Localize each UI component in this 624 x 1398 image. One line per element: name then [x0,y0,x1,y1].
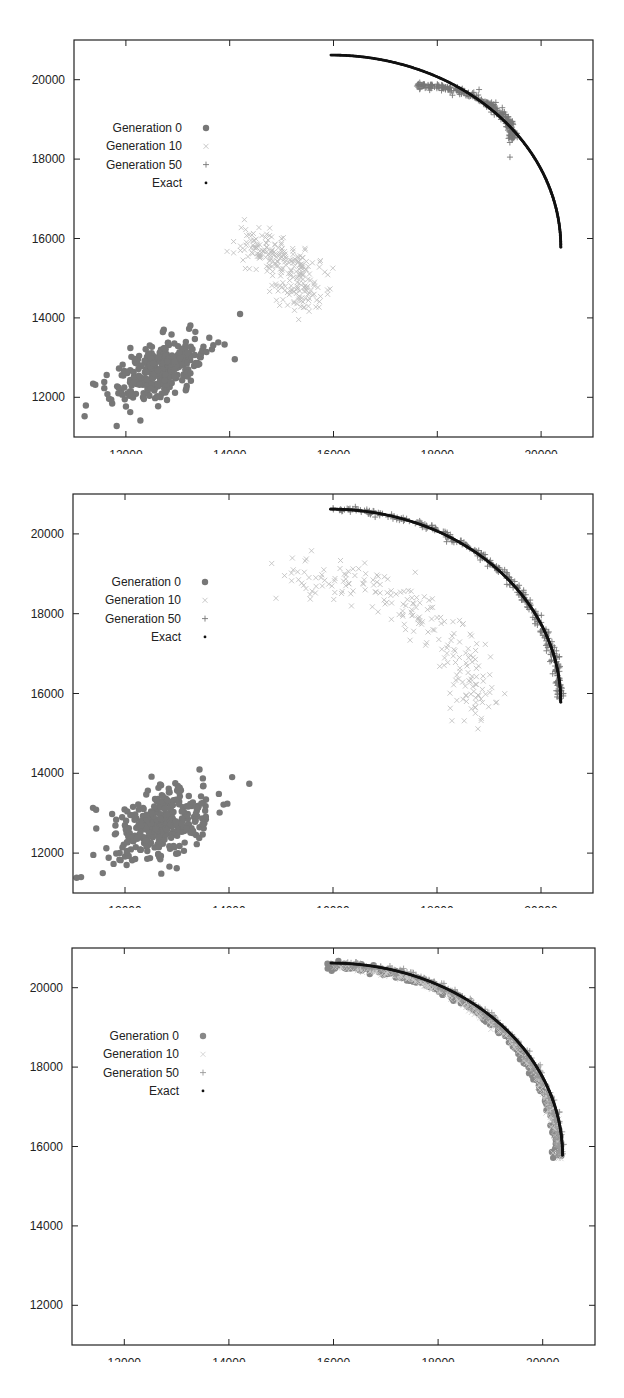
data-point [454,698,459,703]
data-point [273,596,278,601]
data-point [504,581,510,587]
data-point [171,358,177,364]
data-point [130,379,136,385]
data-point [476,663,481,668]
data-point [272,242,277,247]
data-point [435,615,440,620]
data-point [372,514,378,520]
data-point [154,393,160,399]
plot-area [81,54,562,429]
data-point [422,594,427,599]
data-point [103,845,109,851]
data-point [123,403,129,409]
data-point [177,784,183,790]
data-point [203,125,209,131]
data-point [137,417,143,423]
data-point [463,651,468,656]
data-point [181,839,187,845]
data-point [325,292,330,297]
data-point [185,803,191,809]
y-tick-label: 12000 [32,390,66,404]
data-point [409,595,414,600]
data-point [138,822,144,828]
data-point [205,182,208,185]
data-point [373,589,378,594]
data-point [452,648,457,653]
data-point [442,655,447,660]
data-point [349,603,354,608]
data-point [449,718,454,723]
data-point [295,569,300,574]
data-point [166,863,172,869]
data-point [183,825,189,831]
data-point [113,423,119,429]
data-point [475,726,480,731]
data-point [547,659,553,665]
data-point [198,800,204,806]
data-point [242,217,247,222]
legend-label: Generation 50 [103,1066,179,1080]
data-point [100,870,106,876]
y-tick-label: 18000 [32,152,66,166]
data-point [178,821,184,827]
data-point [267,226,272,231]
data-point [439,647,444,652]
data-point [151,803,157,809]
data-point [143,837,149,843]
data-point [302,570,307,575]
data-point [143,811,149,817]
data-point [155,403,161,409]
data-point [448,706,453,711]
data-point [466,646,471,651]
data-point [342,571,347,576]
data-point [449,638,454,643]
data-point [460,680,465,685]
data-point [385,577,390,582]
data-point [123,826,129,832]
data-point [461,697,466,702]
x-tick-label: 16000 [317,1356,351,1362]
data-point [463,684,468,689]
y-tick-label: 12000 [30,1298,64,1312]
data-point [116,857,122,863]
data-point [192,336,198,342]
data-point [487,672,492,677]
data-point [363,571,368,576]
data-point [200,1033,206,1039]
data-point [196,766,202,772]
data-point [309,548,314,553]
data-point [280,280,285,285]
data-point [200,775,206,781]
legend-marker-icon [202,1090,205,1093]
data-point [363,587,368,592]
data-point [468,632,473,637]
x-tick-label: 20000 [526,1356,560,1362]
plot-frame [72,948,595,1345]
data-point [164,397,170,403]
data-point [270,273,275,278]
data-point [442,663,447,668]
chart-panel-middle: 1200014000160001800020000200001800016000… [0,454,624,908]
legend-label: Generation 0 [110,1029,180,1043]
chart-panel-bottom: 1200014000160001800020000200001800016000… [0,908,624,1362]
legend-label: Generation 0 [113,121,183,135]
legend-marker-icon [204,636,207,639]
data-point [464,699,469,704]
data-point [198,793,204,799]
data-point [244,240,249,245]
data-point [194,805,200,811]
data-point [174,833,180,839]
data-point [303,586,308,591]
data-point [145,350,151,356]
y-tick-label: 14000 [32,311,66,325]
data-point [150,360,156,366]
data-point [307,272,312,277]
data-point [330,266,335,271]
data-point [290,556,295,561]
data-point [140,394,146,400]
data-point [232,356,238,362]
data-point [450,619,455,624]
series-generation-0 [73,766,252,881]
data-point [306,304,311,309]
data-point [481,679,486,684]
